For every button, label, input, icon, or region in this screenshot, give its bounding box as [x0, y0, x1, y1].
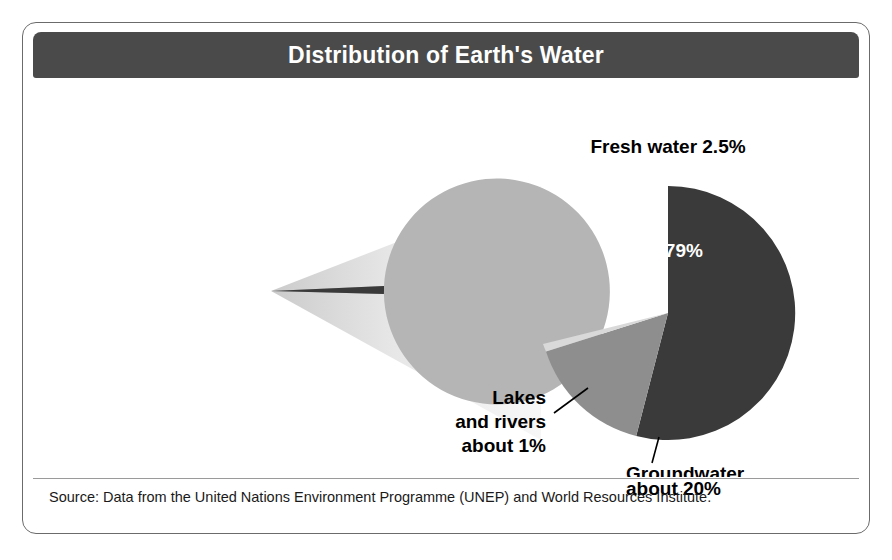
ice-label: Ice 79%: [633, 240, 703, 261]
source-note: Source: Data from the United Nations Env…: [49, 489, 849, 505]
figure-container: Distribution of Earth's Water Salt water…: [22, 22, 870, 534]
footer-divider: [33, 478, 859, 479]
pie-total-water: Salt water in oceans and salt lakes 97.5…: [180, 131, 610, 404]
salt-water-label-line2: and salt lakes: [209, 155, 334, 176]
lakes-label-line3: about 1%: [462, 435, 547, 456]
salt-water-label-line3: 97.5%: [244, 180, 298, 201]
lakes-label-line1: Lakes: [492, 387, 546, 408]
salt-water-label-line1: Salt water in oceans: [180, 131, 363, 152]
fresh-water-label: Fresh water 2.5%: [590, 136, 745, 157]
figure-header-bar: Distribution of Earth's Water: [33, 32, 859, 78]
lakes-label-line2: and rivers: [455, 411, 546, 432]
pie-slice-ice: [636, 186, 795, 440]
groundwater-leader-line: [652, 437, 659, 463]
page-title: Distribution of Earth's Water: [288, 42, 604, 69]
chart-plot-area: Salt water in oceans and salt lakes 97.5…: [23, 79, 868, 477]
